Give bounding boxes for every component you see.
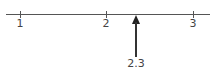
tick-label-3: 3 [190,18,197,30]
number-line-axis [6,14,210,15]
marker-label: 2.3 [127,58,145,70]
tick-label-2: 2 [103,18,110,30]
tick-label-1: 1 [17,18,24,30]
marker-arrow-shaft [135,22,137,57]
